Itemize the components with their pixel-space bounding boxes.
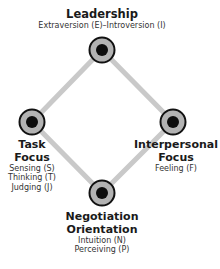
- connector-top-right: [102, 50, 173, 122]
- label-interpersonal-focus: Interpersonal Focus Feeling (F): [133, 139, 219, 173]
- node-title: Focus: [2, 152, 62, 165]
- node-core-icon: [167, 116, 179, 128]
- node-core-icon: [96, 187, 108, 199]
- node-bottom: [90, 181, 115, 206]
- node-title: Focus: [133, 152, 219, 165]
- node-title: Task: [2, 139, 62, 152]
- node-subtitle: Feeling (F): [133, 164, 219, 173]
- node-right: [161, 110, 186, 135]
- node-subtitle: Sensing (S): [2, 164, 62, 173]
- node-core-icon: [96, 44, 108, 56]
- label-leadership: Leadership Extraversion (E)–Introversion…: [20, 8, 184, 30]
- connector-top-left: [32, 50, 102, 122]
- node-title: Leadership: [20, 8, 184, 21]
- node-core-icon: [26, 116, 38, 128]
- node-title: Negotiation: [52, 211, 152, 224]
- node-subtitle: Perceiving (P): [52, 245, 152, 254]
- node-title: Orientation: [52, 224, 152, 237]
- node-subtitle: Intuition (N): [52, 236, 152, 245]
- node-title: Interpersonal: [133, 139, 219, 152]
- node-left: [20, 110, 45, 135]
- node-top: [90, 38, 115, 63]
- label-negotiation-orientation: Negotiation Orientation Intuition (N) Pe…: [52, 211, 152, 255]
- node-subtitle: Judging (J): [2, 183, 62, 192]
- label-task-focus: Task Focus Sensing (S) Thinking (T) Judg…: [2, 139, 62, 192]
- node-subtitle: Extraversion (E)–Introversion (I): [20, 21, 184, 30]
- node-subtitle: Thinking (T): [2, 173, 62, 182]
